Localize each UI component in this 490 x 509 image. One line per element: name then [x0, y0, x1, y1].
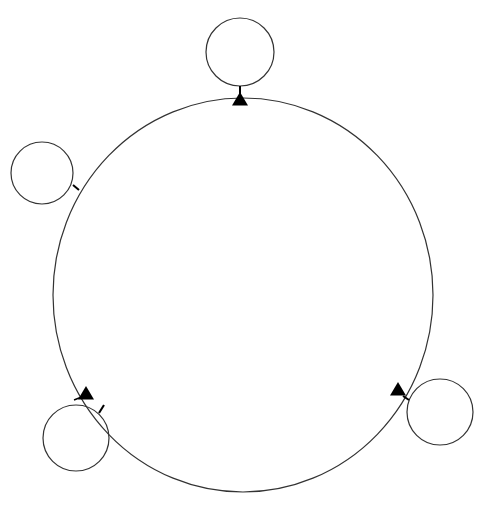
node-circle-left	[11, 142, 73, 204]
main-ring	[53, 98, 433, 492]
connector-bottom-left	[99, 405, 104, 413]
node-circle-right	[407, 379, 473, 445]
connector-left	[73, 185, 79, 190]
node-circle-bottom-left	[43, 405, 109, 471]
node-circle-top	[206, 18, 274, 86]
ring-diagram	[0, 0, 490, 509]
triangle-marker-icon	[390, 382, 406, 396]
nodes-group	[11, 18, 473, 471]
triangle-marker-icon	[232, 92, 248, 106]
